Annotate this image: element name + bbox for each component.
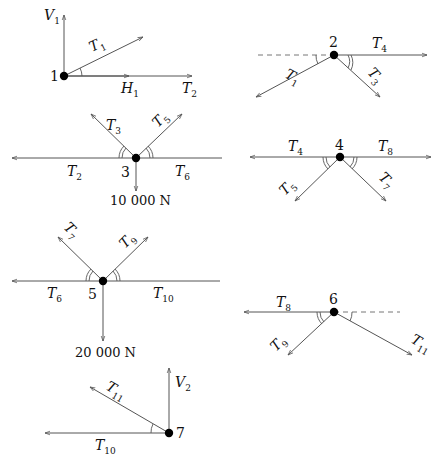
angle-double-arc-icon <box>146 148 150 158</box>
joint-3-diagram: 3 T3 T5 T2 T6 10 000 N <box>12 108 222 208</box>
label-t7: T7 <box>59 219 83 243</box>
force-t5-arrow <box>295 157 340 201</box>
angle-double-arc-icon <box>89 271 93 281</box>
truss-joint-diagrams: 1 V1 T1 H1 T2 2 T4 T1 T3 3 T3 T5 T2 T6 <box>0 0 443 464</box>
force-t11-arrow <box>334 312 412 355</box>
joint-node-1 <box>60 72 68 80</box>
force-t9-arrow <box>288 312 334 355</box>
angle-arc-icon <box>350 312 352 321</box>
angle-double-arc-icon <box>351 55 353 70</box>
joint-node-4 <box>336 153 344 161</box>
label-t8: T8 <box>276 294 291 313</box>
label-t5: T5 <box>149 108 173 132</box>
label-t9: T9 <box>267 332 291 356</box>
label-v2: V2 <box>175 374 191 393</box>
angle-arc-icon <box>151 424 153 433</box>
joint-7-diagram: 7 T11 V2 T10 <box>45 368 191 456</box>
joint-4-diagram: 4 T4 T8 T5 T7 <box>250 137 431 201</box>
force-t11-arrow <box>90 387 169 433</box>
joint-node-3 <box>132 154 140 162</box>
label-t2: T2 <box>182 80 197 99</box>
joint-number: 6 <box>329 291 338 307</box>
joint-5-diagram: 5 T7 T9 T6 T10 20 000 N <box>12 219 220 360</box>
label-t2: T2 <box>67 163 82 182</box>
load-label: 20 000 N <box>75 345 136 360</box>
angle-arc-icon <box>316 55 318 64</box>
joint-node-5 <box>99 277 107 285</box>
angle-double-arc-icon <box>350 157 354 167</box>
label-t6: T6 <box>47 285 62 304</box>
joint-node-2 <box>330 51 338 59</box>
label-t7: T7 <box>374 169 398 193</box>
angle-double-arc-icon <box>348 55 350 68</box>
label-t3: T3 <box>106 117 121 136</box>
label-t4: T4 <box>288 138 303 157</box>
joint-1-diagram: 1 V1 T1 H1 T2 <box>44 7 197 99</box>
angle-arc-icon <box>80 68 82 76</box>
joint-number: 3 <box>121 164 130 180</box>
angle-double-arc-icon <box>113 271 117 281</box>
label-t11: T11 <box>407 331 435 358</box>
joint-node-7 <box>165 429 173 437</box>
label-h1: H1 <box>120 80 139 99</box>
label-t10: T10 <box>153 285 174 304</box>
label-t4: T4 <box>372 35 387 54</box>
label-t1: T1 <box>86 34 108 58</box>
label-t11: T11 <box>102 378 130 405</box>
load-label: 10 000 N <box>110 193 171 208</box>
joint-number: 7 <box>176 425 185 441</box>
label-t9: T9 <box>116 229 140 253</box>
joint-number: 5 <box>88 286 97 302</box>
joint-number: 2 <box>329 34 338 50</box>
angle-double-arc-icon <box>320 312 324 322</box>
label-t6: T6 <box>175 163 190 182</box>
label-t5: T5 <box>276 176 300 200</box>
joint-2-diagram: 2 T4 T1 T3 <box>256 34 427 97</box>
joint-node-6 <box>330 308 338 316</box>
label-t8: T8 <box>378 138 393 157</box>
angle-double-arc-icon <box>122 148 126 158</box>
joint-number: 1 <box>50 68 59 84</box>
force-t7-arrow <box>58 237 103 281</box>
angle-double-arc-icon <box>326 157 330 167</box>
label-v1: V1 <box>44 7 60 26</box>
label-t1: T1 <box>281 66 303 90</box>
label-t10: T10 <box>95 437 116 456</box>
joint-6-diagram: 6 T8 T9 T11 <box>244 291 435 358</box>
joint-number: 4 <box>335 137 344 153</box>
